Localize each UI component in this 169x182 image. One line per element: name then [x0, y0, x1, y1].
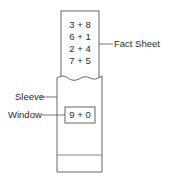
sleeve — [57, 76, 102, 172]
fact-item: 7 + 5 — [61, 55, 99, 67]
fact-item: 2 + 4 — [61, 43, 99, 55]
fact-item: 6 + 1 — [61, 31, 99, 43]
sleeve-label: Sleeve — [15, 91, 44, 102]
fact-sheet-label: Fact Sheet — [114, 38, 160, 49]
fact-item: 3 + 8 — [61, 19, 99, 31]
window-label: Window — [8, 109, 42, 120]
window-value: 9 + 0 — [65, 109, 95, 120]
